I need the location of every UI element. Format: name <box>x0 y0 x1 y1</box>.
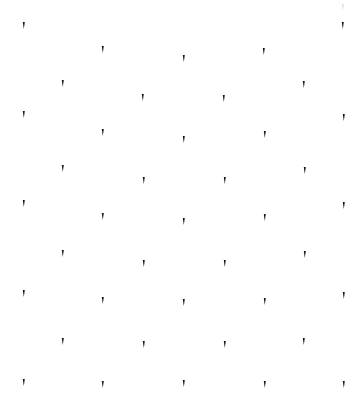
tick-mark-icon <box>304 251 306 258</box>
tick-mark-icon <box>224 177 226 184</box>
tick-mark-icon <box>23 22 25 29</box>
tick-mark-icon <box>142 94 144 101</box>
tick-mark-icon <box>342 22 344 29</box>
tick-mark-icon <box>102 381 104 388</box>
tick-mark-icon <box>183 380 185 387</box>
tick-mark-icon <box>183 299 185 306</box>
tick-mark-icon <box>264 214 266 221</box>
tick-mark-icon <box>303 81 305 88</box>
tick-mark-icon <box>343 292 345 299</box>
tick-mark-icon <box>183 136 185 143</box>
tick-mark-icon <box>102 297 104 304</box>
tick-mark-icon <box>263 48 265 55</box>
tick-mark-icon <box>102 213 104 220</box>
tick-mark-icon <box>343 114 345 121</box>
tick-mark-icon <box>62 250 64 257</box>
tick-mark-icon <box>223 95 225 102</box>
tick-mark-icon <box>183 55 185 62</box>
tick-mark-icon <box>224 341 226 348</box>
tick-mark-icon <box>304 167 306 174</box>
tick-mark-icon <box>102 46 104 53</box>
tick-mark-icon <box>343 202 345 209</box>
tick-mark-icon <box>264 381 266 388</box>
tick-mark-icon <box>183 218 185 225</box>
tick-mark-icon <box>143 341 145 348</box>
tick-mark-icon <box>23 111 25 118</box>
tick-mark-icon <box>62 165 64 172</box>
tick-mark-icon <box>23 200 25 207</box>
tick-mark-icon <box>343 381 345 388</box>
tick-mark-icon <box>143 260 145 267</box>
tick-mark-icon <box>224 260 226 267</box>
tick-mark-icon <box>303 338 305 345</box>
tick-mark-icon <box>102 129 104 136</box>
tick-mark-icon <box>143 177 145 184</box>
tick-mark-icon <box>264 131 266 138</box>
tick-mark-icon <box>264 298 266 305</box>
tick-mark-icon <box>23 290 25 297</box>
pattern-canvas <box>0 0 363 400</box>
tick-mark-icon <box>62 338 64 345</box>
tick-mark-icon <box>62 80 64 87</box>
tick-mark-icon <box>23 379 25 386</box>
faint-tick-mark-icon <box>342 4 344 11</box>
